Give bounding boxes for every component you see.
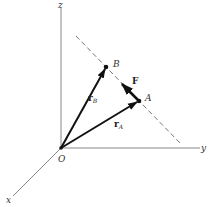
vector-diagram: z y x O B A F rB rA (0, 0, 208, 207)
origin-dot (59, 146, 63, 150)
y-axis-label: y (200, 143, 207, 153)
force-label: F (132, 76, 139, 86)
origin-label: O (58, 154, 66, 164)
z-axis-label: z (57, 0, 63, 10)
vector-r-b (61, 69, 105, 148)
r-a-label: rA (114, 119, 124, 130)
x-axis (13, 148, 61, 196)
point-a-dot (137, 99, 142, 104)
point-b-label: B (112, 59, 120, 69)
x-axis-label: x (6, 195, 11, 205)
vector-r-a (61, 102, 137, 148)
r-b-label: rB (88, 93, 98, 104)
point-a-label: A (144, 93, 152, 103)
vector-force-f (122, 84, 139, 101)
point-b-dot (104, 65, 109, 70)
